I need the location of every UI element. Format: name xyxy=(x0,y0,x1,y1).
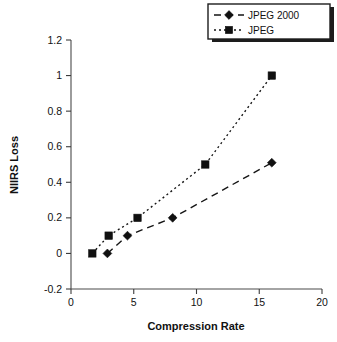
x-tick-label: 10 xyxy=(191,296,203,308)
legend-label-jpeg: JPEG xyxy=(248,25,274,36)
legend: JPEG 2000 JPEG xyxy=(208,4,334,42)
diamond-marker-icon xyxy=(168,213,177,222)
series-line xyxy=(107,163,271,254)
y-tick-label: 0.6 xyxy=(47,140,62,152)
x-axis-ticks: 05101520 xyxy=(68,289,328,308)
x-tick-label: 20 xyxy=(316,296,328,308)
y-axis-ticks: 1.210.80.60.40.20-0.2 xyxy=(44,34,71,295)
chart-canvas: 1.210.80.60.40.20-0.2 05101520 Compressi… xyxy=(0,0,337,342)
y-axis-title: NIIRS Loss xyxy=(8,136,20,194)
y-tick-label: 1.2 xyxy=(47,34,62,46)
series-jpeg-2000 xyxy=(103,158,276,258)
square-marker-icon xyxy=(225,26,232,33)
square-marker-icon xyxy=(105,232,112,239)
y-tick-label: 0.8 xyxy=(47,105,62,117)
y-tick-label: 0 xyxy=(56,247,62,259)
square-marker-icon xyxy=(89,250,96,257)
x-tick-label: 5 xyxy=(131,296,137,308)
square-marker-icon xyxy=(202,161,209,168)
series-line xyxy=(92,76,271,254)
y-tick-label: 1 xyxy=(56,69,62,81)
diamond-marker-icon xyxy=(123,231,132,240)
legend-label-jpeg-2000: JPEG 2000 xyxy=(248,10,300,21)
square-marker-icon xyxy=(268,72,275,79)
data-series-group xyxy=(89,72,277,258)
chart-figure: 1.210.80.60.40.20-0.2 05101520 Compressi… xyxy=(0,0,337,342)
y-tick-label: -0.2 xyxy=(44,283,62,295)
x-axis-title: Compression Rate xyxy=(147,320,244,332)
x-tick-label: 0 xyxy=(68,296,74,308)
y-tick-label: 0.4 xyxy=(47,176,62,188)
x-tick-label: 15 xyxy=(253,296,265,308)
series-jpeg xyxy=(89,72,276,257)
y-tick-label: 0.2 xyxy=(47,211,62,223)
square-marker-icon xyxy=(134,214,141,221)
diamond-marker-icon xyxy=(267,158,276,167)
